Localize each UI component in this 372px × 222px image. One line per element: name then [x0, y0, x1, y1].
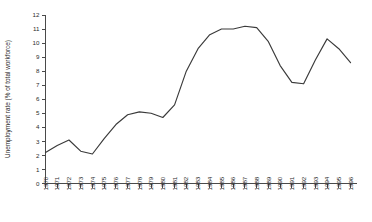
- x-tick-label: 1972: [65, 176, 72, 190]
- y-tick-label: 4: [36, 123, 40, 130]
- data-series-line: [46, 26, 351, 154]
- x-tick-label: 1983: [194, 176, 201, 190]
- x-tick-label: 1992: [300, 176, 307, 190]
- x-tick-label: 1988: [253, 176, 260, 190]
- y-tick-label: 11: [33, 25, 40, 32]
- y-tick-label: 12: [33, 11, 40, 18]
- x-tick-label: 1977: [124, 176, 131, 190]
- y-axis-title-text: Unemployment rate (% of total workforce): [4, 40, 12, 158]
- y-tick-label: 8: [36, 67, 40, 74]
- x-tick-label: 1970: [42, 176, 49, 190]
- x-tick-label: 1979: [147, 176, 154, 190]
- y-tick-label: 5: [36, 109, 40, 116]
- x-tick-label: 1989: [265, 176, 272, 190]
- chart-canvas: Unemployment rate (% of total workforce)…: [0, 0, 372, 222]
- x-tick-label: 1981: [171, 176, 178, 190]
- x-tick-label: 1994: [323, 176, 330, 190]
- x-tick-label: 1973: [77, 176, 84, 190]
- y-tick-label: 3: [36, 138, 40, 145]
- x-tick-label: 1978: [136, 176, 143, 190]
- x-tick-label: 1986: [229, 176, 236, 190]
- x-tick-label: 1982: [182, 176, 189, 190]
- y-axis-ticks: 0123456789101112: [33, 11, 46, 187]
- x-tick-label: 1971: [53, 176, 60, 190]
- x-tick-label: 1985: [218, 176, 225, 190]
- y-tick-label: 7: [36, 81, 40, 88]
- y-tick-label: 9: [36, 53, 40, 60]
- x-tick-label: 1975: [100, 176, 107, 190]
- x-tick-label: 1984: [206, 176, 213, 190]
- y-tick-label: 10: [33, 39, 40, 46]
- x-tick-label: 1987: [241, 176, 248, 190]
- x-tick-label: 1995: [335, 176, 342, 190]
- y-tick-label: 6: [36, 95, 40, 102]
- x-tick-label: 1976: [112, 176, 119, 190]
- y-tick-label: 0: [36, 180, 40, 187]
- unemployment-line-chart: Unemployment rate (% of total workforce)…: [0, 0, 372, 222]
- y-tick-label: 1: [36, 166, 40, 173]
- x-tick-label: 1974: [89, 176, 96, 190]
- x-tick-label: 1996: [347, 176, 354, 190]
- y-tick-label: 2: [36, 152, 40, 159]
- x-tick-label: 1990: [276, 176, 283, 190]
- x-tick-label: 1991: [288, 176, 295, 190]
- y-axis-title: Unemployment rate (% of total workforce): [4, 40, 12, 158]
- x-tick-label: 1980: [159, 176, 166, 190]
- x-tick-label: 1993: [312, 176, 319, 190]
